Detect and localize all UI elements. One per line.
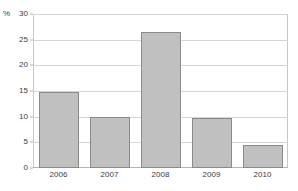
y-axis-tick-label: 0 bbox=[24, 164, 33, 172]
y-axis-tick-label: 30 bbox=[19, 10, 33, 18]
x-axis-tick-label: 2008 bbox=[152, 170, 170, 180]
bar[interactable] bbox=[192, 118, 232, 168]
y-axis-tick-label: 5 bbox=[24, 138, 33, 146]
y-axis-unit-label: % bbox=[3, 9, 10, 18]
x-axis-labels-group: 20062007200820092010 bbox=[33, 170, 288, 188]
x-axis-tick-label: 2010 bbox=[254, 170, 272, 180]
y-axis-tick-label: 10 bbox=[19, 113, 33, 121]
bar-chart: % 051015202530 20062007200820092010 bbox=[0, 0, 298, 191]
bar[interactable] bbox=[90, 117, 130, 168]
x-axis-tick-label: 2006 bbox=[50, 170, 68, 180]
bar[interactable] bbox=[141, 32, 181, 168]
bar[interactable] bbox=[39, 92, 79, 168]
bars-group bbox=[33, 14, 288, 168]
y-axis-tick-label: 20 bbox=[19, 61, 33, 69]
bar[interactable] bbox=[243, 145, 283, 168]
x-axis-tick-label: 2007 bbox=[101, 170, 119, 180]
x-axis-tick-label: 2009 bbox=[203, 170, 221, 180]
y-axis-tick-label: 25 bbox=[19, 36, 33, 44]
y-axis-tick-label: 15 bbox=[19, 87, 33, 95]
